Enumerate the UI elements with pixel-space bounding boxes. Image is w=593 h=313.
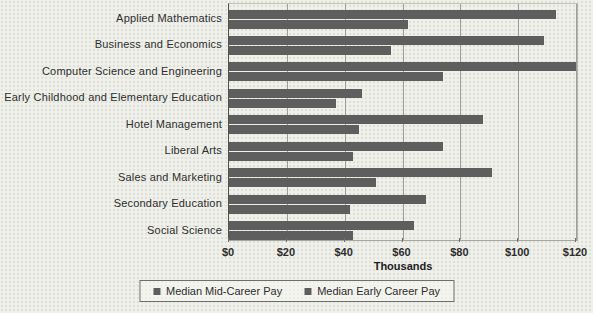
bar-mid-career-pay: [229, 62, 576, 71]
bar-mid-career-pay: [229, 36, 544, 45]
bar-early-career-pay: [229, 178, 376, 187]
category-label: Computer Science and Engineering: [42, 65, 222, 77]
legend-item: Median Mid-Career Pay: [153, 285, 282, 297]
axis-tick: [344, 238, 345, 242]
category-label: Early Childhood and Elementary Education: [4, 91, 222, 103]
x-tick-label: $100: [505, 246, 529, 258]
legend-item: Median Early Career Pay: [304, 285, 440, 297]
category-label: Liberal Arts: [165, 144, 222, 156]
bar-mid-career-pay: [229, 168, 492, 177]
bar-early-career-pay: [229, 46, 391, 55]
x-tick-label: $20: [277, 246, 295, 258]
bar-mid-career-pay: [229, 142, 443, 151]
x-tick-label: $0: [222, 246, 234, 258]
x-tick-label: $80: [450, 246, 468, 258]
axis-tick: [575, 238, 576, 242]
legend-marker-icon: [153, 288, 160, 295]
axis-tick: [228, 238, 229, 242]
legend-box: Median Mid-Career PayMedian Early Career…: [139, 280, 454, 302]
category-label: Social Science: [147, 224, 222, 236]
bar-mid-career-pay: [229, 89, 362, 98]
bar-early-career-pay: [229, 20, 408, 29]
category-label: Sales and Marketing: [118, 171, 222, 183]
category-label: Hotel Management: [126, 118, 222, 130]
bar-early-career-pay: [229, 125, 359, 134]
x-tick-label: $60: [392, 246, 410, 258]
x-axis-title: Thousands: [374, 260, 433, 272]
category-label: Business and Economics: [95, 38, 222, 50]
bar-mid-career-pay: [229, 115, 483, 124]
bar-early-career-pay: [229, 231, 353, 240]
x-tick-label: $40: [334, 246, 352, 258]
bar-mid-career-pay: [229, 195, 426, 204]
legend-label: Median Mid-Career Pay: [166, 285, 282, 297]
axis-tick: [286, 238, 287, 242]
category-label: Secondary Education: [114, 197, 222, 209]
plot-area: [228, 3, 578, 241]
pay-by-major-bar-chart: Thousands Median Mid-Career PayMedian Ea…: [0, 0, 593, 313]
axis-tick: [517, 238, 518, 242]
bar-early-career-pay: [229, 72, 443, 81]
legend-marker-icon: [304, 288, 311, 295]
bar-early-career-pay: [229, 152, 353, 161]
gridline: [576, 4, 577, 240]
x-tick-label: $120: [563, 246, 587, 258]
bar-early-career-pay: [229, 99, 336, 108]
bar-mid-career-pay: [229, 10, 556, 19]
axis-tick: [459, 238, 460, 242]
bar-early-career-pay: [229, 205, 350, 214]
legend-label: Median Early Career Pay: [317, 285, 440, 297]
axis-tick: [402, 238, 403, 242]
bar-mid-career-pay: [229, 221, 414, 230]
category-label: Applied Mathematics: [116, 12, 222, 24]
